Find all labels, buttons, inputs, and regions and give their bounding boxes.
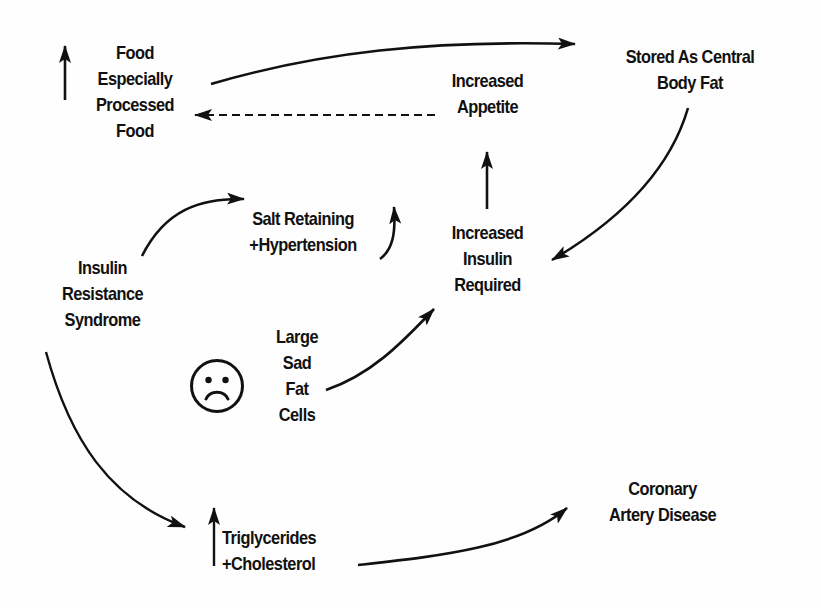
node-insulin-required: Increased Insulin Required [434,220,542,298]
node-salt-retaining: Salt Retaining +Hypertension [239,206,368,258]
node-stored-fat: Stored As Central Body Fat [604,44,776,96]
arrow-salt-increase-icon [380,207,394,259]
arrow-irs-to-salt-retaining [142,199,244,256]
node-fat-cells: Large Sad Fat Cells [267,324,327,428]
arrow-irs-to-lipids [46,352,185,527]
node-coronary-artery-disease: Coronary Artery Disease [592,476,734,528]
node-insulin-resistance-syndrome: Insulin Resistance Syndrome [49,255,157,333]
node-appetite: Increased Appetite [434,68,542,120]
node-triglycerides-cholesterol: Triglycerides +Cholesterol [222,525,316,577]
arrow-fat-cells-to-insulin-required [326,309,434,390]
sad-face-icon [189,358,245,414]
diagram-canvas: Food Especially Processed Food Stored As… [0,0,821,608]
node-food: Food Especially Processed Food [88,40,183,144]
arrow-lipids-to-cad [358,508,567,565]
arrow-stored-fat-to-insulin-required [552,108,688,260]
